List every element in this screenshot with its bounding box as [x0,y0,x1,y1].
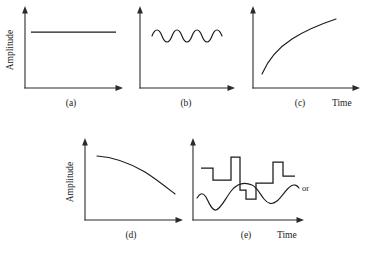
panel-a: (a) [22,6,123,109]
time-axis-title-bottom: Time [277,230,297,240]
panel-e-x-axis-arrow-icon [297,217,305,223]
amplitude-axis-title-top-group: Amplitude [5,30,15,71]
panel-e-signal-analog-wave [197,183,299,210]
panel-b-y-axis-arrow-icon [137,6,143,14]
panel-e-signal-square-wave [201,157,295,199]
panel-d-x-axis-arrow-icon [176,217,184,223]
panel-b: (b) [137,6,235,109]
amplitude-axis-title-bottom: Amplitude [65,162,75,203]
panel-d: (d) [82,138,183,241]
amplitude-axis-title-bottom-group: Amplitude [65,162,75,203]
panel-c: (c) Time [250,6,360,109]
signal-waveforms-figure: (a) Amplitude (b) (c) Time [0,0,366,256]
figure-canvas: (a) Amplitude (b) (c) Time [0,0,366,256]
panel-a-y-axis-arrow-icon [22,6,28,14]
amplitude-axis-title-top: Amplitude [5,30,15,71]
panel-c-signal-rising-curve [262,19,336,74]
panel-a-label: (a) [66,98,77,109]
panel-d-y-axis-arrow-icon [82,138,88,146]
panel-c-y-axis-arrow-icon [250,6,256,14]
panel-e-y-axis-arrow-icon [190,138,196,146]
panel-c-x-axis-arrow-icon [353,85,361,91]
panel-b-label: (b) [180,98,191,109]
or-annotation-label: or [302,183,309,193]
panel-c-label: (c) [295,98,306,109]
panel-d-label: (d) [125,230,136,241]
panel-d-signal-decay-curve [97,156,175,194]
panel-e-label: (e) [241,230,252,241]
panel-a-x-axis-arrow-icon [116,85,124,91]
time-axis-title-top: Time [332,98,352,108]
panel-b-x-axis-arrow-icon [228,85,236,91]
panel-e: or (e) Time [190,138,309,241]
panel-b-signal-sine-wave [152,30,222,42]
